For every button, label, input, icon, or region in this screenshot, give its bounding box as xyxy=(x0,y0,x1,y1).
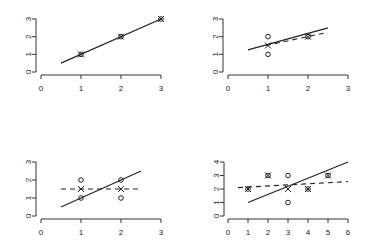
data-point-circle xyxy=(79,178,84,183)
regression-line-dashed xyxy=(266,33,324,45)
y-tick-label: 0 xyxy=(212,213,221,218)
regression-line-dashed xyxy=(238,182,348,188)
data-point-circle xyxy=(286,200,291,205)
y-tick-label: 0 xyxy=(24,69,33,74)
y-tick-label: 0 xyxy=(211,69,220,74)
x-tick-label: 0 xyxy=(39,84,44,93)
x-tick-label: 2 xyxy=(266,228,271,237)
panel-top-right: 01230123 xyxy=(211,16,351,93)
x-tick-label: 1 xyxy=(246,228,251,237)
x-tick-label: 4 xyxy=(306,228,311,237)
x-tick-label: 3 xyxy=(159,228,164,237)
x-tick-label: 0 xyxy=(226,84,231,93)
x-tick-label: 3 xyxy=(286,228,291,237)
data-point-circle xyxy=(266,52,271,57)
x-tick-label: 3 xyxy=(159,84,164,93)
data-point-circle xyxy=(119,196,124,201)
x-tick-label: 2 xyxy=(119,84,124,93)
x-tick-label: 0 xyxy=(226,228,231,237)
y-tick-label: 3 xyxy=(24,16,33,21)
y-tick-label: 2 xyxy=(212,186,221,191)
data-point-circle xyxy=(286,173,291,178)
x-tick-label: 2 xyxy=(306,84,311,93)
x-tick-label: 1 xyxy=(79,228,84,237)
x-tick-label: 5 xyxy=(326,228,331,237)
x-tick-label: 0 xyxy=(39,228,44,237)
regression-line-solid xyxy=(61,19,161,63)
x-tick-label: 2 xyxy=(119,228,124,237)
data-point-circle xyxy=(266,34,271,39)
x-tick-label: 1 xyxy=(266,84,271,93)
panel-top-left: 01230123 xyxy=(24,16,164,93)
x-tick-label: 6 xyxy=(346,228,351,237)
y-tick-label: 3 xyxy=(24,159,33,164)
panel-bottom-left: 01230123 xyxy=(24,159,164,237)
y-tick-label: 3 xyxy=(211,16,220,21)
y-tick-label: 1 xyxy=(24,52,33,57)
y-tick-label: 0 xyxy=(24,213,33,218)
regression-line-solid xyxy=(248,162,348,203)
y-tick-label: 2 xyxy=(211,34,220,39)
y-tick-label: 1 xyxy=(211,52,220,57)
y-tick-label: 3 xyxy=(212,173,221,178)
chart-canvas: 01230123 01230123 01230123 012340123456 xyxy=(0,0,367,249)
y-tick-label: 2 xyxy=(24,34,33,39)
y-tick-label: 4 xyxy=(212,159,221,164)
y-tick-label: 1 xyxy=(212,200,221,205)
regression-line-solid xyxy=(248,28,328,50)
x-tick-label: 3 xyxy=(346,84,351,93)
panel-bottom-right: 012340123456 xyxy=(212,159,351,237)
y-tick-label: 1 xyxy=(24,195,33,200)
y-tick-label: 2 xyxy=(24,177,33,182)
x-tick-label: 1 xyxy=(79,84,84,93)
